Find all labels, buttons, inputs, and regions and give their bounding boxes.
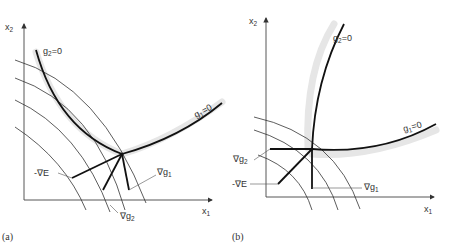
y-axis-label-a: x2 [5,22,14,33]
leader-grad-g1-a [129,175,156,190]
caption-b: (b) [232,231,244,243]
x-axis-label-a: x1 [202,206,211,217]
leader-grad-g2-a [110,205,118,213]
y-axis-label-b: x2 [249,16,258,27]
caption-a: (a) [2,231,13,243]
x-axis-label-b: x1 [424,204,433,215]
contour-b-2 [254,130,338,210]
grad-g2-label-b: ∇g2 [232,154,248,165]
leader-grad-g2-b [254,149,270,160]
grad-g2-label-a: ∇g2 [119,211,135,222]
optimum-point-a [120,152,123,155]
contour-a-4 [15,127,86,210]
neg-grad-E-vector-a [72,154,122,178]
feasible-shade-a [36,52,222,154]
diagram-canvas: x2 x1 g2=0 g1=0 -∇E ∇g1 ∇g2 (a) x2 [0,0,453,251]
contour-a-3 [15,100,110,212]
optimum-point-b [310,147,313,150]
grad-g1-label-b: ∇g1 [363,182,379,193]
neg-grad-E-label-b: -∇E [232,179,247,189]
grad-g1-label-a: ∇g1 [156,167,172,178]
g2-label-b: g2=0 [333,33,352,44]
panel-a: x2 x1 g2=0 g1=0 -∇E ∇g1 ∇g2 (a) [2,22,222,243]
panel-b: x2 x1 g2=0 g1=0 ∇g2 -∇E ∇g1 (b) [232,16,436,243]
g2-label-a: g2=0 [43,46,62,57]
grad-g1-vector-a [122,154,129,190]
constraint-g2-a [36,50,122,154]
neg-grad-E-label-a: -∇E [34,168,49,178]
